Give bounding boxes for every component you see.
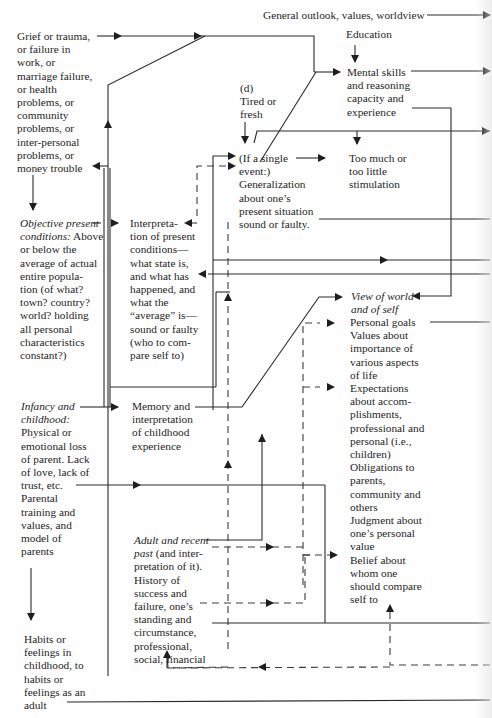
node-objective-body: Above or below the average of actual ent… — [20, 230, 103, 361]
node-tired-or-fresh: (d) Tired or fresh — [240, 82, 276, 122]
node-single-event-generalization: (If a single event:) Generalization abou… — [239, 152, 313, 231]
page-edge-shadow — [476, 0, 492, 718]
node-infancy-title: Infancy and childhood: — [21, 400, 75, 425]
node-personal-goals-list: Personal goals Values about importance o… — [350, 316, 424, 606]
node-adult-recent-past: Adult and recent past (and inter- pretat… — [134, 534, 209, 666]
node-grief-trauma: Grief or trauma, or failure in work, or … — [17, 30, 92, 175]
node-view-of-world: View of world and of self — [351, 290, 414, 316]
node-habits-feelings: Habits or feelings in childhood, to habi… — [24, 633, 85, 712]
node-infancy-body: Physical or emotional loss of parent. La… — [21, 426, 90, 557]
node-adult-body: (and inter- pretation of it). History of… — [134, 547, 206, 665]
node-stimulation: Too much or too little stimulation — [349, 152, 407, 192]
causal-diagram: General outlook, values, worldview Grief… — [0, 0, 492, 718]
node-infancy-childhood: Infancy and childhood: Physical or emoti… — [21, 400, 90, 558]
node-memory-childhood: Memory and interpretation of childhood e… — [132, 400, 193, 453]
node-general-outlook: General outlook, values, worldview — [263, 9, 425, 22]
node-mental-skills: Mental skills and reasoning capacity and… — [347, 66, 410, 119]
node-objective-conditions: Objective present conditions: Above or b… — [20, 217, 103, 362]
node-education: Education — [346, 28, 392, 41]
node-interpretation-present: Interpreta- tion of present conditions— … — [130, 217, 198, 362]
